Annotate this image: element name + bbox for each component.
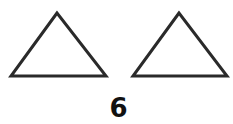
triangle-left [11,13,106,76]
answer-number: 6 [0,94,233,122]
triangle-right [133,13,227,76]
